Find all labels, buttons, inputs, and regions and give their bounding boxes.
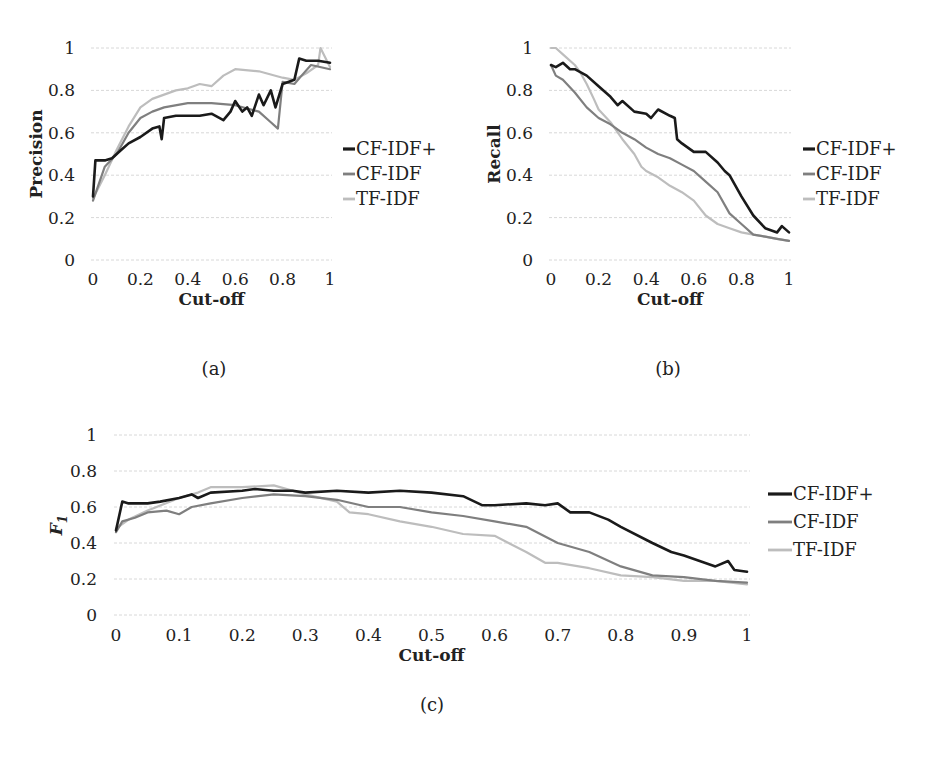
y-tick-label: 0.8 (70, 461, 97, 481)
legend-entry: TF-IDF (793, 539, 857, 560)
series-line-cf-idf (116, 494, 747, 582)
y-tick-label: 0 (522, 250, 533, 270)
x-tick-label: 0.4 (633, 269, 660, 289)
x-tick-label: 1 (742, 625, 753, 645)
y-tick-label: 0.6 (70, 497, 97, 517)
legend-entry: CF-IDF+ (793, 483, 874, 504)
x-tick-label: 0.8 (607, 625, 634, 645)
y-tick-label: 0.2 (506, 208, 533, 228)
x-tick-label: 0.4 (174, 269, 201, 289)
y-tick-label: 0.8 (506, 80, 533, 100)
legend-entry: CF-IDF+ (816, 138, 897, 159)
x-tick-label: 0.2 (229, 625, 256, 645)
x-tick-label: 0.1 (166, 625, 193, 645)
x-tick-label: 0 (111, 625, 122, 645)
y-tick-label: 1 (86, 425, 97, 445)
x-tick-label: 0.8 (728, 269, 755, 289)
legend-entry: CF-IDF (356, 163, 422, 184)
y-axis-label: F1 (46, 515, 70, 536)
x-tick-label: 0.9 (670, 625, 697, 645)
y-axis-label: Recall (484, 124, 504, 184)
y-tick-label: 0.2 (48, 208, 75, 228)
legend-entry: TF-IDF (356, 188, 420, 209)
y-tick-label: 0.6 (48, 123, 75, 143)
x-tick-label: 1 (784, 269, 795, 289)
subfigure-caption: (b) (655, 358, 681, 379)
x-tick-label: 0.7 (544, 625, 571, 645)
subfigure-caption: (a) (202, 358, 227, 379)
y-tick-label: 0.4 (506, 165, 533, 185)
legend-entry: TF-IDF (816, 188, 880, 209)
x-tick-label: 0.3 (292, 625, 319, 645)
y-tick-label: 0 (86, 605, 97, 625)
y-tick-label: 0.4 (48, 165, 75, 185)
figure: 00.20.40.60.8100.20.40.60.81Cut-offPreci… (0, 0, 930, 761)
subfigure-caption: (c) (420, 694, 444, 715)
series-line-tf-idf (93, 48, 330, 199)
x-tick-label: 0 (546, 269, 557, 289)
x-tick-label: 0.4 (355, 625, 382, 645)
series-line-tf-idf (116, 485, 747, 584)
precision-chart: 00.20.40.60.8100.20.40.60.81Cut-offPreci… (26, 38, 437, 379)
x-tick-label: 0.6 (481, 625, 508, 645)
x-tick-label: 0.2 (585, 269, 612, 289)
x-axis-label: Cut-off (178, 289, 245, 309)
x-tick-label: 0.6 (222, 269, 249, 289)
series-line-cf-idf-plus (116, 489, 747, 572)
y-tick-label: 0.8 (48, 80, 75, 100)
x-tick-label: 0.8 (269, 269, 296, 289)
x-tick-label: 0.5 (418, 625, 445, 645)
y-tick-label: 0.2 (70, 569, 97, 589)
x-tick-label: 0.6 (680, 269, 707, 289)
x-tick-label: 1 (325, 269, 336, 289)
x-axis-label: Cut-off (637, 289, 704, 309)
x-tick-label: 0.2 (127, 269, 154, 289)
f1-chart: 00.20.40.60.8100.10.20.30.40.50.60.70.80… (46, 425, 874, 715)
recall-chart: 00.20.40.60.8100.20.40.60.81Cut-offRecal… (484, 38, 897, 379)
y-tick-label: 0 (64, 250, 75, 270)
y-tick-label: 1 (522, 38, 533, 58)
legend-entry: CF-IDF (793, 511, 859, 532)
y-axis-label: Precision (26, 109, 46, 198)
y-tick-label: 0.6 (506, 123, 533, 143)
y-tick-label: 0.4 (70, 533, 97, 553)
series-line-cf-idf-plus (551, 63, 789, 233)
y-tick-label: 1 (64, 38, 75, 58)
x-axis-label: Cut-off (398, 645, 465, 665)
legend-entry: CF-IDF+ (356, 138, 437, 159)
legend-entry: CF-IDF (816, 163, 882, 184)
x-tick-label: 0 (88, 269, 99, 289)
